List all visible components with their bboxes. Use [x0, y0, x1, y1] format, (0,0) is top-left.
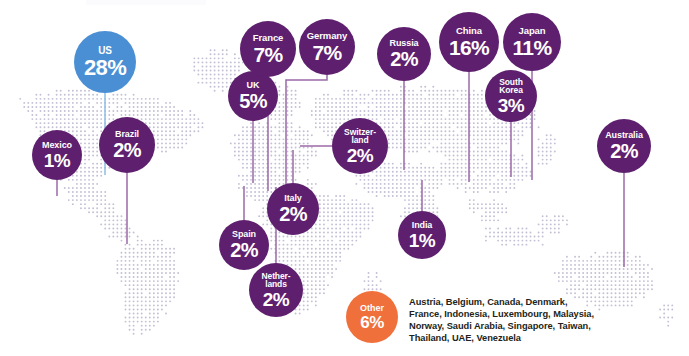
bubble-country-label: India: [412, 221, 433, 230]
other-country-list: Austria, Belgium, Canada, Denmark, Franc…: [409, 291, 594, 344]
bubble-value-label: 2%: [263, 290, 289, 309]
bubble-value-label: 2%: [610, 141, 638, 161]
other-badge-value: 6%: [360, 314, 383, 331]
bubble-country-label: Russia: [390, 39, 419, 48]
bubble-value-label: 1%: [409, 231, 435, 250]
bubble-value-label: 7%: [253, 44, 282, 65]
country-bubble-spain[interactable]: Spain2%: [219, 220, 269, 270]
bubble-country-label: Spain: [232, 230, 256, 239]
bubble-value-label: 2%: [390, 49, 418, 69]
bubble-value-label: 3%: [498, 96, 524, 115]
country-bubble-russia[interactable]: Russia2%: [377, 27, 431, 81]
country-bubble-china[interactable]: China16%: [439, 12, 499, 72]
bubble-country-label: Italy: [284, 194, 302, 203]
country-bubble-germany[interactable]: Germany7%: [299, 19, 355, 75]
bubble-value-label: 16%: [449, 37, 489, 58]
bubble-country-label: UK: [247, 81, 260, 90]
country-bubble-uk[interactable]: UK5%: [228, 71, 278, 121]
bubble-value-label: 2%: [230, 240, 258, 260]
country-bubble-mexico[interactable]: Mexico1%: [32, 130, 82, 180]
bubble-value-label: 5%: [239, 91, 267, 111]
bubble-country-label: Brazil: [115, 130, 139, 139]
country-bubble-italy[interactable]: Italy2%: [267, 183, 319, 235]
bubble-country-label: Australia: [605, 131, 643, 140]
country-bubble-india[interactable]: India1%: [398, 211, 446, 259]
bubble-country-label: China: [456, 26, 482, 36]
bubble-value-label: 28%: [84, 57, 126, 79]
bubble-country-label: Nether- lands: [261, 272, 290, 289]
other-badge: Other 6%: [346, 291, 398, 343]
bubble-country-label: US: [98, 46, 112, 56]
bubble-value-label: 11%: [512, 37, 551, 58]
country-bubble-japan[interactable]: Japan11%: [503, 13, 561, 71]
bubble-value-label: 2%: [113, 140, 141, 160]
country-bubble-south-korea[interactable]: South Korea3%: [485, 70, 537, 122]
bubble-value-label: 1%: [44, 151, 70, 170]
country-bubble-netherlands[interactable]: Nether- lands2%: [249, 263, 303, 317]
other-legend: Other 6% Austria, Belgium, Canada, Denma…: [346, 291, 594, 344]
bubble-country-label: Germany: [307, 31, 348, 41]
bubble-country-label: France: [253, 33, 284, 43]
country-bubble-us[interactable]: US28%: [74, 31, 136, 93]
other-badge-label: Other: [360, 304, 384, 313]
bubble-value-label: 2%: [279, 204, 307, 224]
bubble-country-label: Mexico: [42, 141, 72, 150]
country-bubble-switzerland[interactable]: Switzer- land2%: [332, 118, 388, 174]
world-share-infographic: US28%Mexico1%Brazil2%UK5%France7%Germany…: [0, 0, 689, 356]
country-bubble-france[interactable]: France7%: [240, 21, 296, 77]
country-bubble-australia[interactable]: Australia2%: [597, 119, 651, 173]
bubble-country-label: Japan: [519, 26, 546, 36]
bubble-value-label: 7%: [312, 42, 341, 63]
bubble-country-label: Switzer- land: [344, 128, 376, 145]
bubble-value-label: 2%: [347, 146, 373, 165]
country-bubble-brazil[interactable]: Brazil2%: [99, 117, 155, 173]
bubble-country-label: South Korea: [499, 78, 523, 95]
